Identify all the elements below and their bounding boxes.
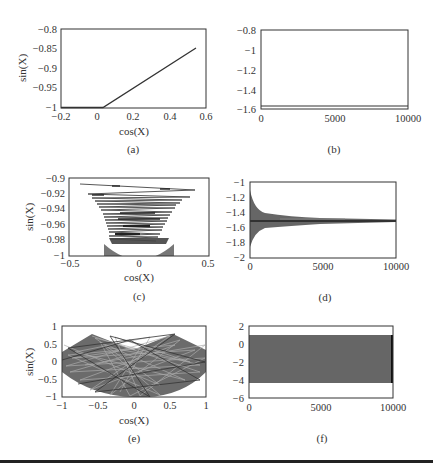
xtick: 0 bbox=[258, 113, 263, 124]
xtick: 5000 bbox=[311, 402, 332, 413]
xtick: 0.2 bbox=[126, 111, 139, 122]
xtick: −0.5 bbox=[88, 400, 107, 411]
ytick: −1 bbox=[46, 391, 57, 402]
xtick: −0.5 bbox=[60, 258, 79, 269]
xtick: 10000 bbox=[380, 402, 406, 413]
xtick: 10000 bbox=[383, 261, 409, 272]
oscillation-band bbox=[249, 335, 393, 383]
panel-f: 2 0 −2 −4 −6 0 5000 10000 (f) bbox=[233, 321, 406, 445]
ytick: 0 bbox=[239, 339, 244, 350]
caption-c: (c) bbox=[133, 290, 146, 303]
xtick: 0.5 bbox=[163, 400, 176, 411]
y-axis-label: sin(X) bbox=[23, 203, 36, 231]
ytick: −2 bbox=[234, 252, 245, 263]
ytick: −0.98 bbox=[41, 234, 65, 245]
ytick: −0.8 bbox=[38, 24, 57, 35]
xtick: 5000 bbox=[325, 113, 346, 124]
caption-a: (a) bbox=[127, 143, 140, 156]
ytick: −0.85 bbox=[33, 43, 57, 54]
caption-b: (b) bbox=[328, 143, 341, 156]
x-axis-label: cos(X) bbox=[119, 125, 149, 138]
ytick: −1.6 bbox=[237, 104, 256, 115]
panel-e: 1 0.5 0 −0.5 −1 −1 −0.5 0 0.5 1 cos(X) s… bbox=[23, 321, 209, 445]
caption-e: (e) bbox=[128, 432, 141, 445]
ytick: −0.92 bbox=[41, 188, 65, 199]
panel-c: −0.9 −0.92 −0.94 −0.96 −0.98 −1 −0.5 0 0… bbox=[23, 173, 215, 303]
ytick: 0 bbox=[52, 356, 57, 367]
ytick: −4 bbox=[233, 375, 245, 386]
xtick: 10000 bbox=[395, 113, 421, 124]
trajectory-lines bbox=[80, 184, 195, 260]
xtick: 0 bbox=[246, 402, 251, 413]
xtick: 0 bbox=[94, 111, 99, 122]
ytick: −1 bbox=[234, 177, 245, 188]
xtick: 0.6 bbox=[199, 111, 212, 122]
panel-b: −0.8 −1 −1.2 −1.4 −1.6 0 5000 10000 (b) bbox=[237, 25, 421, 156]
panel-d: −1 −1.2 −1.4 −1.6 −1.8 −2 0 5000 10000 (… bbox=[226, 177, 409, 304]
ytick: −0.96 bbox=[41, 219, 65, 230]
ytick: −0.9 bbox=[46, 173, 65, 184]
caption-f: (f) bbox=[317, 432, 328, 445]
xtick: 0 bbox=[131, 400, 136, 411]
ytick: −0.94 bbox=[41, 203, 66, 214]
ytick: −1.2 bbox=[226, 192, 245, 203]
ytick: −1.6 bbox=[226, 222, 245, 233]
ytick: 1 bbox=[52, 321, 57, 332]
ytick: −0.5 bbox=[38, 374, 57, 385]
x-axis-label: cos(X) bbox=[119, 414, 149, 427]
ytick: −1.4 bbox=[226, 207, 246, 218]
ytick: −0.9 bbox=[38, 63, 57, 74]
ytick: −1 bbox=[245, 45, 256, 56]
chaotic-trajectory bbox=[62, 334, 206, 397]
x-axis-label: cos(X) bbox=[124, 271, 154, 284]
ytick: −1.2 bbox=[237, 65, 256, 76]
trajectory-line bbox=[61, 48, 196, 108]
damped-oscillation bbox=[250, 190, 396, 247]
ytick: −0.8 bbox=[237, 25, 256, 36]
ytick: 0.5 bbox=[44, 339, 57, 350]
y-axis-label: sin(X) bbox=[16, 54, 29, 82]
figure: −0.8 −0.85 −0.9 −0.95 −1 −0.2 0 0.2 0.4 … bbox=[0, 0, 435, 471]
xtick: 1 bbox=[203, 400, 208, 411]
bottom-rule bbox=[0, 460, 433, 463]
ytick: −0.95 bbox=[33, 82, 57, 93]
y-axis-label: sin(X) bbox=[23, 348, 36, 376]
xtick: 0 bbox=[247, 261, 252, 272]
xtick: 0 bbox=[136, 258, 141, 269]
ytick: −1.8 bbox=[226, 237, 245, 248]
xtick: 0.4 bbox=[163, 111, 177, 122]
ytick: −1.4 bbox=[237, 85, 257, 96]
caption-d: (d) bbox=[319, 291, 332, 304]
ytick: −6 bbox=[233, 393, 244, 404]
xtick: 0.5 bbox=[201, 258, 214, 269]
ytick: −2 bbox=[233, 357, 244, 368]
xtick: −0.2 bbox=[51, 111, 70, 122]
panel-a: −0.8 −0.85 −0.9 −0.95 −1 −0.2 0 0.2 0.4 … bbox=[16, 24, 213, 156]
ytick: 2 bbox=[239, 321, 244, 332]
xtick: 5000 bbox=[313, 261, 334, 272]
xtick: −1 bbox=[56, 400, 67, 411]
